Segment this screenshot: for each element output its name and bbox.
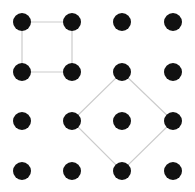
dot-r2-c0	[13, 112, 31, 130]
dot-r0-c1	[63, 13, 81, 31]
dot-r1-c3	[164, 63, 182, 81]
dot-r2-c3	[164, 112, 182, 130]
shape-lines	[22, 22, 173, 171]
dot-r1-c2	[113, 63, 131, 81]
dot-r0-c0	[13, 13, 31, 31]
dot-r2-c2	[113, 112, 131, 130]
dot-grid-diagram	[0, 0, 195, 192]
dot-r1-c0	[13, 63, 31, 81]
dot-r3-c1	[63, 162, 81, 180]
square-shape	[22, 22, 72, 72]
dot-r0-c3	[164, 13, 182, 31]
dot-r0-c2	[113, 13, 131, 31]
dot-r1-c1	[63, 63, 81, 81]
dot-r2-c1	[63, 112, 81, 130]
dot-r3-c3	[164, 162, 182, 180]
dot-r3-c2	[113, 162, 131, 180]
dot-r3-c0	[13, 162, 31, 180]
